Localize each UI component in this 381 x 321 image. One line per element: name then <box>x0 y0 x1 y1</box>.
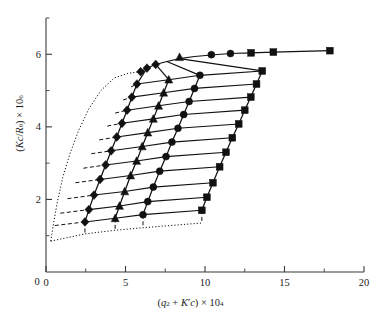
data-point-circle <box>144 198 151 205</box>
top-boundary-curve <box>141 51 330 72</box>
data-point-circle <box>180 111 187 118</box>
y-tick-group: 0246 <box>34 18 52 287</box>
data-point-square <box>204 194 211 201</box>
angle-extrapolation-dashed <box>55 222 85 226</box>
data-point-square <box>247 94 254 101</box>
data-point-square <box>248 49 255 56</box>
data-point-circle <box>227 50 234 57</box>
data-point-square <box>229 134 236 141</box>
data-point-circle <box>191 85 198 92</box>
y-tick-label: 4 <box>36 121 42 132</box>
data-point-square <box>259 68 266 75</box>
x-tick-label: 20 <box>359 277 370 288</box>
data-point-diamond <box>118 119 126 128</box>
data-point-square <box>210 179 217 186</box>
data-point-square <box>241 107 248 114</box>
data-point-diamond <box>90 191 98 200</box>
data-point-square <box>326 47 333 54</box>
data-point-square <box>235 121 242 128</box>
y-axis-title: (Kc/Rθ) × 106 <box>14 69 25 179</box>
data-point-diamond <box>133 80 141 89</box>
data-point-diamond <box>102 161 110 170</box>
data-point-diamond <box>96 175 104 184</box>
x-tick-label: 5 <box>123 277 128 288</box>
data-point-diamond <box>123 106 131 115</box>
x-axis-title-text: (q2 + K′c) × 104 <box>157 297 223 308</box>
zero-angle-curve <box>51 72 141 241</box>
concentration-line-upper <box>180 59 263 71</box>
x-tick-label: 0 <box>43 277 48 288</box>
data-point-circle <box>163 153 170 160</box>
x-tick-group: 05101520 <box>43 266 369 288</box>
data-point-square <box>216 163 223 170</box>
data-point-circle <box>156 168 163 175</box>
data-point-square <box>253 81 260 88</box>
data-point-circle <box>196 72 203 79</box>
data-point-square <box>270 49 277 56</box>
data-point-circle <box>139 211 146 218</box>
y-axis-title-text: (Kc/Rθ) × 106 <box>14 95 25 152</box>
data-point-square <box>198 207 205 214</box>
plot-canvas: 05101520 0246 <box>0 0 381 321</box>
concentration-line-upper <box>167 62 200 76</box>
zimm-plot-figure: 05101520 0246 (Kc/Rθ) × 106 (q2 + K′c) ×… <box>0 0 381 321</box>
extrapolation-group <box>51 51 330 242</box>
y-tick-label: 6 <box>36 49 41 60</box>
x-axis-title: (q2 + K′c) × 104 <box>0 297 381 308</box>
data-point-diamond <box>85 205 93 214</box>
data-point-diamond <box>107 146 115 155</box>
y-tick-label: 0 <box>34 276 39 287</box>
data-point-diamond <box>128 93 136 102</box>
data-point-square <box>223 149 230 156</box>
angle-extrapolation-dashed <box>67 195 94 199</box>
data-point-diamond <box>81 218 89 227</box>
data-point-circle <box>174 125 181 132</box>
y-tick-label: 2 <box>36 194 41 205</box>
x-tick-label: 10 <box>200 277 211 288</box>
data-point-circle <box>186 98 193 105</box>
marker-group <box>81 47 333 226</box>
zero-concentration-curve <box>51 223 202 241</box>
x-tick-label: 15 <box>279 277 290 288</box>
data-point-circle <box>168 139 175 146</box>
data-point-circle <box>208 51 215 58</box>
data-point-triangle <box>176 53 184 61</box>
data-point-circle <box>150 184 157 191</box>
data-point-diamond <box>113 133 121 142</box>
angle-extrapolation-dashed <box>60 210 89 214</box>
